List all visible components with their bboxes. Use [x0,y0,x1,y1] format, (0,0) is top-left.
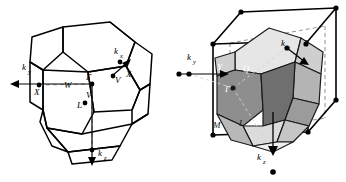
axis-kx-subscript: x [119,52,123,59]
label-gamma: Γ [85,72,92,82]
symmetry-point-labels: X Γ W V L X V [33,69,132,110]
label-x-left: X [33,87,40,97]
axis-kz-subscript: z [262,158,266,165]
cube-corner-dot [333,97,338,102]
axis-ky-origin-dot [176,71,181,76]
axis-ky-subscript: y [27,68,31,75]
figure-container: k y k x k z [0,0,346,182]
axis-kz-label: k [257,152,262,162]
axis-kz-label: k [98,148,103,158]
label-gamma: Γ [224,84,231,94]
label-l: L [238,118,244,128]
cube-corner-dot [305,129,310,134]
label-q: Q [243,64,250,74]
cube-corner-dot [210,132,215,137]
axis-kz-end-dot [270,169,276,175]
dot-l [83,101,88,106]
dot-w-top [118,60,123,65]
cube-corner-dot [238,9,243,14]
dot-gamma [90,82,95,87]
axis-kx-point-dot [303,41,308,46]
axis-ky-arrowhead [10,80,19,88]
dot-w [284,45,289,50]
label-m: M [212,120,221,130]
cube-corner-dot [333,5,338,10]
axis-ky-label: k [187,52,192,62]
panel-right-shaded: k y k x k z [173,0,346,182]
dot-x [186,71,191,76]
dot-gamma [230,85,235,90]
axis-kx-label: k [114,46,119,56]
label-v-right: V [115,75,122,85]
label-l: L [76,100,82,110]
construction-dashed-lines [39,84,92,150]
label-x: X [184,78,191,88]
axis-ky-subscript: y [192,58,196,65]
panel-left-wireframe: k y k x k z [0,0,173,182]
label-w-mid: W [64,80,73,90]
label-x-right: X [125,69,132,79]
axis-kz-subscript: z [103,154,107,161]
cube-corner-dot [210,41,215,46]
axis-ky-label: k [22,62,27,72]
dot-bottom [90,148,95,153]
